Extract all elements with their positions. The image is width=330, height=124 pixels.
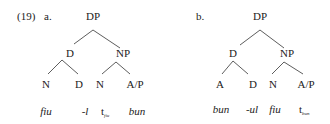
tree-b-leaf: N (269, 79, 277, 90)
tree-b-root: DP (253, 11, 267, 22)
tree-b-leaf: D (249, 79, 257, 90)
tree-b-word: fiu (269, 104, 281, 115)
tree-a-right-node: NP (116, 48, 130, 59)
tree-a-leaf: A/P (126, 79, 143, 90)
tree-a-label: a. (44, 11, 52, 22)
tree-b-word: bun (213, 104, 230, 115)
tree-a-word: fiu (40, 106, 52, 117)
tree-b-leaf: A/P (297, 79, 314, 90)
tree-a-trace: tfiu (101, 106, 109, 121)
tree-b-left-node: D (229, 48, 237, 59)
tree-a-left-node: D (66, 48, 74, 59)
tree-b-label: b. (196, 11, 204, 22)
tree-b-trace: tbun (299, 104, 310, 119)
tree-a-leaf: N (96, 79, 104, 90)
tree-a-word: bun (129, 106, 146, 117)
tree-b-word: -ul (246, 104, 258, 115)
tree-b-leaf: A (216, 79, 224, 90)
tree-b-right-node: NP (280, 48, 294, 59)
tree-a-leaf: N (42, 79, 50, 90)
example-number: (19) (17, 11, 35, 22)
tree-a-word: -l (82, 106, 89, 117)
tree-a-root: DP (86, 11, 100, 22)
tree-a-leaf: D (75, 79, 83, 90)
